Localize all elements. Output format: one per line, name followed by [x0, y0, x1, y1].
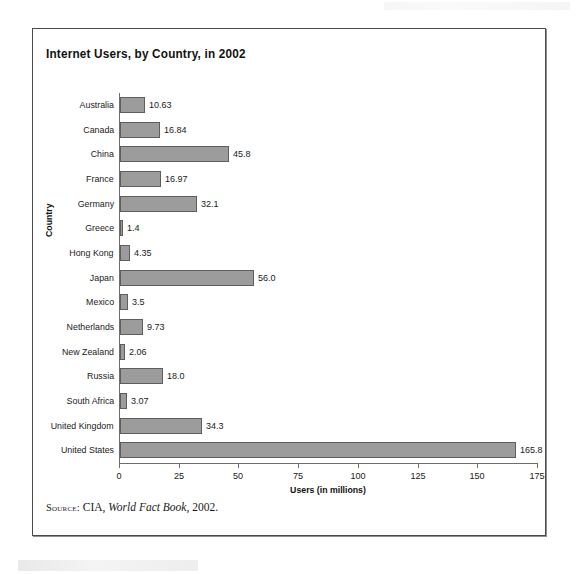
page-scan-artifact-bottom — [18, 560, 198, 571]
category-label: Hong Kong — [70, 245, 114, 261]
bar-value-label: 32.1 — [201, 196, 219, 212]
plot-area: Australia10.63Canada16.84China45.8France… — [119, 93, 537, 463]
bar — [120, 368, 163, 384]
source-after-italic: , 2002. — [186, 501, 218, 513]
bar-row: Russia18.0 — [119, 364, 537, 388]
bar-row: Japan56.0 — [119, 266, 537, 290]
category-label: United States — [61, 442, 114, 458]
x-tick-label: 150 — [470, 470, 485, 481]
x-tick-label: 25 — [174, 470, 184, 481]
bar-row: Hong Kong4.35 — [119, 241, 537, 265]
category-label: New Zealand — [62, 344, 114, 360]
x-tick-label: 175 — [529, 470, 544, 481]
page-scan-artifact-top — [384, 2, 570, 10]
bar-value-label: 3.5 — [132, 294, 145, 310]
source-before-italic: CIA, — [83, 501, 109, 513]
bar — [120, 319, 143, 335]
x-tick-label: 75 — [293, 470, 303, 481]
bar — [120, 393, 127, 409]
bar-row: China45.8 — [119, 142, 537, 166]
source-title-italic: World Fact Book — [108, 501, 186, 513]
x-tick — [358, 463, 359, 468]
category-label: China — [91, 146, 114, 162]
bar-value-label: 16.97 — [165, 171, 188, 187]
category-label: Russia — [87, 368, 114, 384]
x-axis-title: Users (in millions) — [136, 484, 521, 495]
bar-value-label: 56.0 — [258, 270, 276, 286]
category-label: South Africa — [66, 393, 114, 409]
y-axis-title: Country — [43, 203, 54, 237]
category-label: Japan — [90, 270, 114, 286]
category-label: United Kingdom — [51, 418, 114, 434]
x-tick-label: 100 — [350, 470, 365, 481]
bar-value-label: 2.06 — [129, 344, 147, 360]
bar — [120, 344, 125, 360]
source-note: Source: CIA, World Fact Book, 2002. — [46, 501, 218, 513]
bar-row: Germany32.1 — [119, 192, 537, 216]
bar-row: Mexico3.5 — [119, 290, 537, 314]
x-tick-label: 125 — [410, 470, 425, 481]
x-tick-label: 50 — [233, 470, 243, 481]
x-tick — [537, 463, 538, 468]
bar-row: New Zealand2.06 — [119, 340, 537, 364]
bar-row: Australia10.63 — [119, 93, 537, 117]
bar-row: United States165.8 — [119, 438, 537, 462]
category-label: France — [86, 171, 114, 187]
bar-value-label: 9.73 — [147, 319, 165, 335]
x-tick — [477, 463, 478, 468]
bar — [120, 97, 145, 113]
chart-title: Internet Users, by Country, in 2002 — [46, 47, 246, 61]
category-label: Netherlands — [66, 319, 114, 335]
bar-row: France16.97 — [119, 167, 537, 191]
bar — [120, 270, 254, 286]
x-tick-label: 0 — [116, 470, 121, 481]
bar-value-label: 165.8 — [520, 442, 543, 458]
bar — [120, 220, 123, 236]
figure-frame: Internet Users, by Country, in 2002 Aust… — [32, 28, 546, 536]
x-tick — [298, 463, 299, 468]
bar — [120, 122, 160, 138]
bar-value-label: 34.3 — [206, 418, 224, 434]
bar-value-label: 10.63 — [149, 97, 172, 113]
bar-row: Canada16.84 — [119, 118, 537, 142]
bar-row: Greece1.4 — [119, 216, 537, 240]
x-tick — [179, 463, 180, 468]
category-label: Germany — [78, 196, 114, 212]
bar-row: United Kingdom34.3 — [119, 414, 537, 438]
category-label: Greece — [85, 220, 114, 236]
bar-row: South Africa3.07 — [119, 389, 537, 413]
bar — [120, 171, 161, 187]
bar-value-label: 1.4 — [127, 220, 140, 236]
bar — [120, 146, 229, 162]
category-label: Canada — [83, 122, 114, 138]
bar-value-label: 18.0 — [167, 368, 185, 384]
bar — [120, 294, 128, 310]
bar-value-label: 16.84 — [164, 122, 187, 138]
source-kicker: Source: — [46, 502, 80, 513]
bar-row: Netherlands9.73 — [119, 315, 537, 339]
bar-value-label: 3.07 — [131, 393, 149, 409]
bar-value-label: 4.35 — [134, 245, 152, 261]
bar — [120, 196, 197, 212]
x-tick — [418, 463, 419, 468]
bar — [120, 245, 130, 261]
bar-value-label: 45.8 — [233, 146, 251, 162]
x-axis-line — [119, 463, 537, 464]
bar — [120, 418, 202, 434]
x-tick — [119, 463, 120, 468]
x-tick — [238, 463, 239, 468]
category-label: Australia — [80, 97, 114, 113]
category-label: Mexico — [86, 294, 114, 310]
bar — [120, 442, 516, 458]
